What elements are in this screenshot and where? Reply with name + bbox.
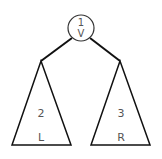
left-subtree-number: 2 — [38, 107, 45, 120]
right-subtree-number: 3 — [118, 107, 125, 120]
left-subtree-letter: L — [38, 131, 45, 144]
root-label-bottom: V — [78, 28, 85, 39]
left-subtree: 2 L — [12, 61, 71, 145]
right-subtree-letter: R — [117, 131, 125, 144]
edge-root-right — [90, 38, 120, 61]
right-subtree: 3 R — [91, 61, 150, 145]
edge-root-left — [41, 38, 72, 61]
root-label-top: 1 — [78, 17, 84, 28]
binary-tree-diagram: 1 V 2 L 3 R — [0, 0, 162, 159]
root-node: 1 V — [68, 15, 94, 41]
